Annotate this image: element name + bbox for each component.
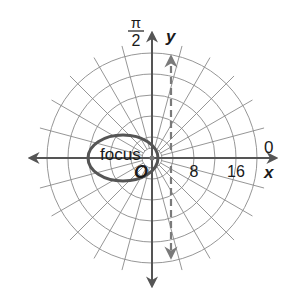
origin-label: O (134, 162, 148, 182)
radial-line (155, 168, 182, 270)
radial-line (157, 167, 210, 259)
tick-label-16: 16 (227, 163, 245, 180)
radial-line (40, 161, 142, 188)
radial-line (122, 168, 149, 270)
polar-graph: π 2 y 0 x 8 16 focus O (0, 0, 290, 302)
angle-label-zero: 0 (264, 138, 273, 157)
radial-line (52, 163, 144, 216)
angle-label-2: 2 (132, 32, 141, 49)
radial-line (157, 58, 210, 150)
tick-label-8: 8 (190, 163, 199, 180)
pole-point (150, 156, 155, 161)
radial-line (122, 46, 149, 148)
radial-line (155, 46, 182, 148)
radial-line (162, 128, 264, 155)
y-axis-label: y (165, 27, 177, 46)
radial-line (162, 161, 264, 188)
radial-line (161, 100, 253, 153)
x-axis-label: x (263, 163, 275, 182)
angle-label-pi: π (131, 14, 141, 31)
